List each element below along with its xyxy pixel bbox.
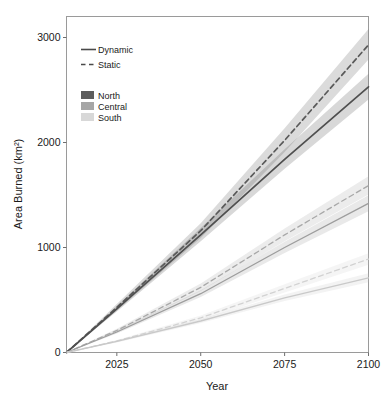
legend-line-styles: Dynamic Static [81, 45, 134, 70]
legend-swatch-north [81, 91, 94, 99]
x-tick-label: 2100 [357, 358, 381, 370]
legend-regions: North Central South [81, 91, 127, 123]
chart-svg: 0100020003000 2025205020752100 Year Area… [0, 0, 387, 397]
y-tick-label: 3000 [37, 31, 61, 43]
legend-swatch-south [81, 113, 94, 121]
band-central-static [67, 176, 369, 352]
band-south-static [67, 253, 369, 352]
x-tick-label: 2075 [273, 358, 297, 370]
y-tick-label: 0 [55, 346, 61, 358]
legend-label-north: North [98, 91, 120, 101]
legend-label-central: Central [98, 102, 127, 112]
y-axis-title: Area Burned (km²) [12, 139, 24, 229]
y-tick-label: 1000 [37, 241, 61, 253]
x-tick-label: 2025 [105, 358, 129, 370]
legend-label-static: Static [98, 60, 121, 70]
y-axis: 0100020003000 [37, 31, 66, 358]
legend-label-south: South [98, 113, 122, 123]
band-north-static [67, 29, 369, 352]
legend-label-dynamic: Dynamic [98, 45, 134, 55]
x-axis-title: Year [206, 380, 229, 392]
area-burned-line-chart: 0100020003000 2025205020752100 Year Area… [0, 0, 387, 397]
y-tick-label: 2000 [37, 136, 61, 148]
confidence-bands [67, 29, 369, 352]
x-axis: 2025205020752100 [105, 353, 380, 370]
x-tick-label: 2050 [189, 358, 213, 370]
legend-swatch-central [81, 102, 94, 110]
